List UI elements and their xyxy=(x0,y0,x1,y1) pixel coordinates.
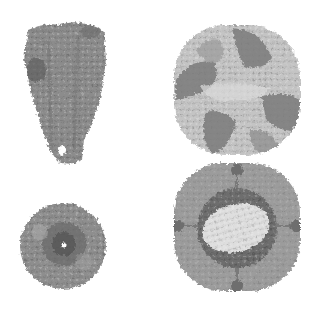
panel-sphere-exterior xyxy=(170,20,305,160)
protein-illustration xyxy=(0,0,320,312)
panel-stalk-side-view xyxy=(20,20,110,170)
panel-sphere-cutaway xyxy=(170,160,305,295)
panel-ring-top-view xyxy=(20,203,106,289)
